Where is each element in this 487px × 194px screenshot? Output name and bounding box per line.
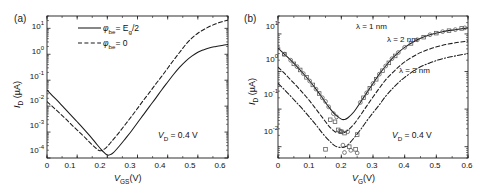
- figure-container: (a) 101 100 10-1 10-2 10-3 10-4 ID (µA) …: [0, 0, 487, 194]
- panel-a: (a) 101 100 10-1 10-2 10-3 10-4 ID (µA) …: [0, 0, 244, 194]
- panel-a-plot: [0, 0, 244, 194]
- panel-b-plot: [244, 0, 487, 194]
- panel-b: (b) 101 100 10-1 10-2 ID (µA) 0 0.1 0.2 …: [244, 0, 487, 194]
